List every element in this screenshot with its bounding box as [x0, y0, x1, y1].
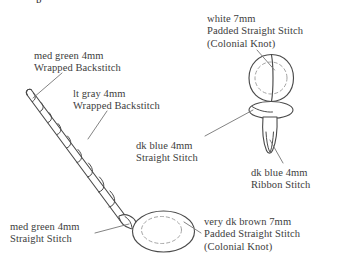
leader-dkblue-straight [205, 110, 253, 136]
label-white-line-3: (Colonial Knot) [207, 38, 303, 50]
label-white-line-1: white 7mm [207, 13, 303, 25]
label-medgreen-ss-line-1: med green 4mm [10, 221, 80, 233]
label-med-green-wrapped-backstitch: med green 4mm Wrapped Backstitch [34, 50, 121, 75]
label-dkbrown-line-3: (Colonial Knot) [204, 241, 300, 253]
label-dk-blue-ribbon-stitch: dk blue 4mm Ribbon Stitch [251, 167, 310, 192]
dk-blue-ribbon-stitch-petal [263, 117, 277, 153]
label-dkblue-ss-line-2: Straight Stitch [136, 152, 198, 164]
label-medgreen-ss-line-2: Straight Stitch [10, 233, 80, 245]
label-dkblue-rs-line-1: dk blue 4mm [251, 167, 310, 179]
white-padded-bud [249, 55, 294, 102]
bud-collar-straight-stitch [249, 102, 293, 119]
label-dk-blue-straight-stitch: dk blue 4mm Straight Stitch [136, 140, 198, 165]
label-medgreen-wb-line-2: Wrapped Backstitch [34, 62, 121, 74]
label-white-line-2: Padded Straight Stitch [207, 25, 303, 37]
label-med-green-straight-stitch: med green 4mm Straight Stitch [10, 221, 80, 246]
label-lt-gray-wrapped-backstitch: lt gray 4mm Wrapped Backstitch [73, 88, 160, 113]
dk-brown-padded-oval [133, 211, 195, 252]
label-dkbrown-line-1: very dk brown 7mm [204, 216, 300, 228]
leader-medgreen-wrapped [33, 73, 62, 98]
leader-ltgray-wrapped [88, 111, 107, 139]
leader-medgreen-straight [95, 224, 129, 233]
label-dkbrown-line-2: Padded Straight Stitch [204, 228, 300, 240]
label-ltgray-wb-line-1: lt gray 4mm [73, 88, 160, 100]
label-dkblue-rs-line-2: Ribbon Stitch [251, 179, 310, 191]
label-medgreen-wb-line-1: med green 4mm [34, 50, 121, 62]
label-white-padded-straight-stitch: white 7mm Padded Straight Stitch (Coloni… [207, 13, 303, 50]
label-very-dk-brown-padded-straight-stitch: very dk brown 7mm Padded Straight Stitch… [204, 216, 300, 253]
label-ltgray-wb-line-2: Wrapped Backstitch [73, 100, 160, 112]
label-dkblue-ss-line-1: dk blue 4mm [136, 140, 198, 152]
stitch-diagram: p [0, 0, 352, 278]
